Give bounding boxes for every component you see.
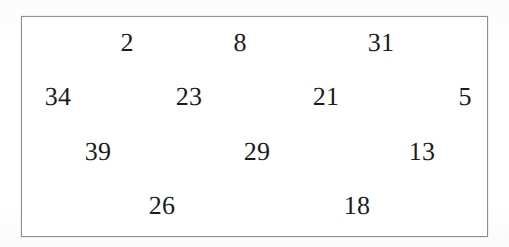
number-cell[interactable]: 5	[458, 84, 471, 110]
number-cell[interactable]: 23	[176, 84, 202, 110]
number-cell[interactable]: 26	[149, 193, 175, 219]
number-cell[interactable]: 8	[233, 30, 246, 56]
number-cell[interactable]: 31	[368, 30, 394, 56]
number-cell[interactable]: 34	[45, 84, 71, 110]
number-cell[interactable]: 29	[244, 139, 270, 165]
number-cell[interactable]: 13	[409, 139, 435, 165]
number-cell[interactable]: 39	[85, 139, 111, 165]
number-grid-box: 283134232153929132618	[21, 16, 488, 237]
number-cell[interactable]: 2	[120, 30, 133, 56]
number-cell[interactable]: 21	[313, 84, 339, 110]
page-root: 283134232153929132618	[0, 0, 509, 247]
number-cell[interactable]: 18	[344, 193, 370, 219]
